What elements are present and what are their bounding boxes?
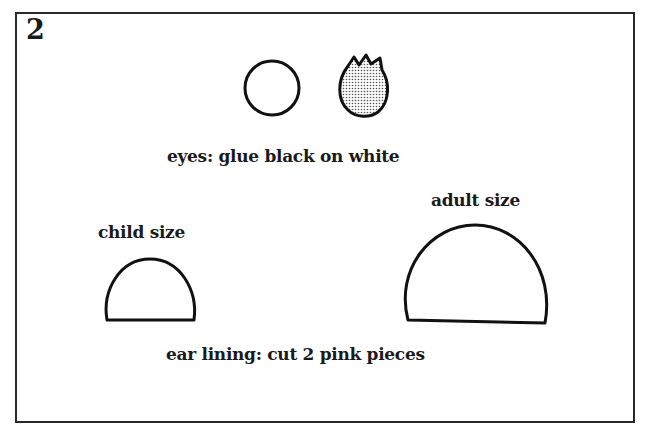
pattern-drawings: [0, 0, 648, 430]
ear-lining-caption: ear lining: cut 2 pink pieces: [166, 344, 425, 364]
child-size-label: child size: [98, 222, 185, 242]
eye-black-shape: [340, 55, 388, 116]
eyes-caption: eyes: glue black on white: [167, 146, 399, 166]
adult-size-label: adult size: [431, 190, 520, 210]
ear-lining-adult-shape: [405, 225, 546, 323]
eye-white-shape: [245, 61, 299, 115]
ear-lining-child-shape: [106, 259, 194, 320]
